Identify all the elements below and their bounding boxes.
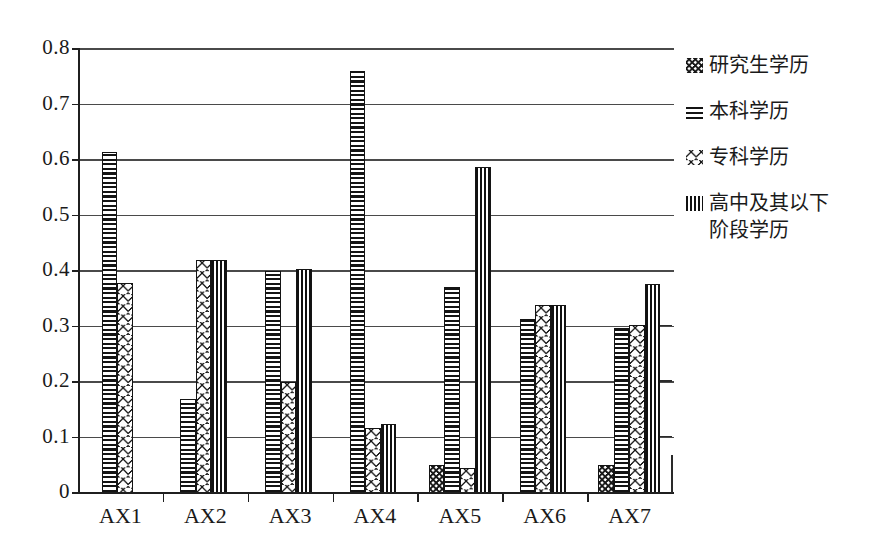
bar — [296, 269, 312, 493]
y-axis-tick-mark — [72, 326, 80, 328]
legend-item-label: 专科学历 — [709, 144, 789, 171]
x-axis-tick-label: AX5 — [417, 503, 502, 529]
bar — [180, 399, 196, 493]
x-axis-tick-label: AX7 — [587, 503, 672, 529]
y-axis-tick-mark — [72, 381, 80, 383]
plot-right-edge — [671, 455, 673, 493]
bar — [645, 284, 661, 493]
gridline — [80, 48, 674, 50]
gridline — [80, 381, 674, 383]
legend-item-label: 高中及其以下 阶段学历 — [709, 190, 829, 244]
x-axis-tick-mark — [417, 493, 419, 502]
legend-item-label: 研究生学历 — [709, 52, 809, 79]
y-axis-tick-mark — [72, 159, 80, 161]
bar — [102, 152, 118, 493]
x-axis-tick-label: AX6 — [502, 503, 587, 529]
bar — [265, 271, 281, 493]
y-axis-tick-mark — [72, 215, 80, 217]
bar — [551, 305, 567, 493]
gridline — [80, 326, 674, 328]
bar — [350, 71, 366, 493]
x-axis-tick-mark — [333, 493, 335, 502]
plot-right-tick — [660, 380, 672, 382]
bar — [614, 328, 630, 493]
bar — [429, 465, 445, 493]
vertical-lines-swatch-icon — [686, 196, 703, 211]
y-axis-tick-label: 0.2 — [42, 370, 70, 391]
bar — [365, 428, 381, 493]
x-axis-tick-mark — [248, 493, 250, 502]
x-axis-tick-mark — [502, 493, 504, 502]
y-axis-tick-label: 0.1 — [42, 426, 70, 447]
legend-item[interactable]: 研究生学历 — [686, 52, 882, 79]
y-axis-tick-label: 0.4 — [42, 259, 70, 280]
y-axis-tick-labels: 0.80.70.60.50.40.30.20.10 — [0, 0, 70, 557]
bar — [444, 287, 460, 493]
bar — [381, 424, 397, 493]
bar — [196, 260, 212, 493]
x-axis-tick-mark — [587, 493, 589, 502]
bar — [117, 283, 133, 493]
plot-area — [78, 48, 672, 493]
plot-right-tick — [660, 436, 672, 438]
bar — [520, 319, 536, 493]
gridline — [80, 159, 674, 161]
y-axis-tick-label: 0.3 — [42, 315, 70, 336]
y-axis-tick-mark — [72, 48, 80, 50]
y-axis-tick-mark — [72, 104, 80, 106]
legend-item[interactable]: 高中及其以下 阶段学历 — [686, 190, 882, 244]
bar — [460, 468, 476, 493]
legend-item[interactable]: 本科学历 — [686, 98, 882, 125]
y-axis-tick-label: 0.5 — [42, 204, 70, 225]
x-axis-tick-label: AX1 — [78, 503, 163, 529]
horizontal-lines-swatch-icon — [686, 104, 703, 119]
y-axis-tick-label: 0.6 — [42, 148, 70, 169]
bar — [629, 325, 645, 493]
chart-legend: 研究生学历本科学历专科学历高中及其以下 阶段学历 — [686, 52, 882, 263]
bar — [535, 305, 551, 493]
y-axis-tick-label: 0.7 — [42, 93, 70, 114]
bar — [475, 167, 491, 493]
x-axis-tick-mark — [163, 493, 165, 502]
y-axis-tick-mark — [72, 437, 80, 439]
bar — [598, 465, 614, 493]
bar — [211, 260, 227, 493]
plot-right-tick — [660, 325, 672, 327]
x-axis-tick-label: AX2 — [163, 503, 248, 529]
gridline — [80, 215, 674, 217]
x-axis-tick-label: AX3 — [248, 503, 333, 529]
x-axis-line — [78, 492, 674, 494]
bar-chart: 0.80.70.60.50.40.30.20.10 AX1AX2AX3AX4AX… — [0, 0, 882, 557]
x-axis-tick-label: AX4 — [333, 503, 418, 529]
y-axis-tick-label: 0 — [59, 481, 70, 502]
y-axis-tick-mark — [72, 270, 80, 272]
gridline — [80, 270, 674, 272]
legend-item-label: 本科学历 — [709, 98, 789, 125]
gridline — [80, 104, 674, 106]
checker-swatch-icon — [686, 58, 703, 73]
diamond-lattice-swatch-icon — [686, 150, 703, 165]
y-axis-tick-label: 0.8 — [42, 37, 70, 58]
bar — [281, 382, 297, 493]
legend-item[interactable]: 专科学历 — [686, 144, 882, 171]
